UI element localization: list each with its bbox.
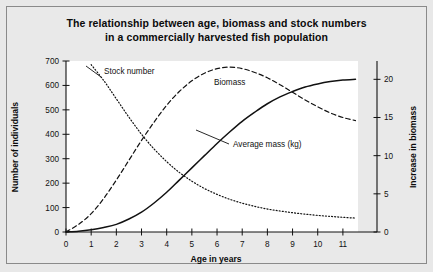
right-axis: 05101520 [374,61,394,237]
left-axis-tick-label: 500 [45,106,59,115]
right-axis-tick-label: 0 [384,228,389,237]
x-axis-tick-label: 11 [339,240,348,249]
left-axis-tick-label: 400 [45,130,59,139]
left-axis-tick-label: 700 [45,57,59,66]
curve-label: Average mass (kg) [233,140,302,149]
y2-axis-title: Increase in biomass [408,106,418,188]
x-axis-tick-label: 7 [240,240,245,249]
curve-label: Biomass [214,78,245,87]
right-axis-tick-label: 10 [384,152,394,161]
y-axis-title: Number of individuals [10,102,20,192]
x-axis-tick-label: 1 [89,240,94,249]
left-axis-tick-label: 300 [45,155,59,164]
x-axis-tick-label: 5 [190,240,195,249]
curve-label: Stock number [104,67,155,76]
plot-area: 0100200300400500600700 05101520 01234567… [0,0,433,272]
right-axis-tick-label: 5 [384,190,389,199]
x-axis-tick-label: 10 [313,240,323,249]
left-axis-tick-label: 0 [54,228,59,237]
x-axis-tick-label: 3 [139,240,144,249]
left-axis-tick-label: 600 [45,81,59,90]
x-axis-tick-label: 4 [164,240,169,249]
x-axis-tick-label: 2 [114,240,119,249]
x-axis-tick-label: 0 [64,240,69,249]
plot-background [66,61,358,232]
x-axis-title: Age in years [190,254,241,264]
right-axis-tick-label: 20 [384,75,394,84]
left-axis-tick-label: 200 [45,179,59,188]
left-axis: 0100200300400500600700 [45,57,69,237]
x-axis: 01234567891011 [64,229,377,250]
right-axis-tick-label: 15 [384,113,394,122]
x-axis-tick-label: 8 [265,240,270,249]
chart-figure: The relationship between age, biomass an… [0,0,433,272]
x-axis-tick-label: 6 [215,240,220,249]
left-axis-tick-label: 100 [45,204,59,213]
x-axis-tick-label: 9 [290,240,295,249]
